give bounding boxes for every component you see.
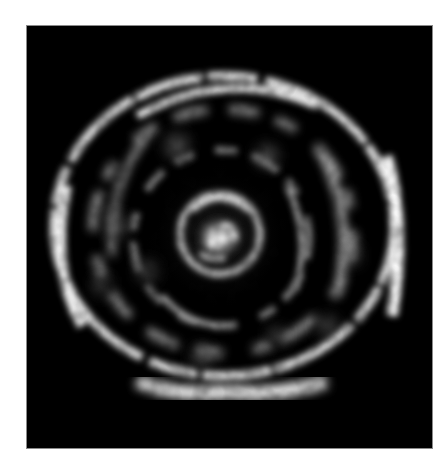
ring-image-panel	[26, 25, 433, 449]
ring-image	[27, 26, 433, 449]
grain-overlay	[27, 26, 433, 449]
figure	[0, 0, 447, 474]
